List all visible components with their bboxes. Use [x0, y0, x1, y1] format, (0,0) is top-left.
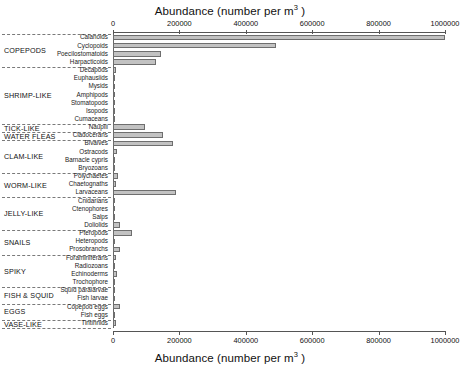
x-tick-mark-top	[445, 30, 446, 34]
bar-row[interactable]	[113, 181, 445, 189]
x-axis-title-top-tail: )	[298, 5, 305, 17]
bar-row[interactable]	[113, 58, 445, 66]
bar-row[interactable]	[113, 287, 445, 295]
bar-row[interactable]	[113, 140, 445, 148]
category-label: Calanoids	[80, 33, 108, 40]
bar[interactable]	[113, 247, 120, 253]
bar[interactable]	[113, 132, 163, 138]
x-tick-label-bottom: 200000	[167, 336, 192, 345]
bar[interactable]	[113, 181, 116, 187]
bar[interactable]	[113, 320, 116, 326]
bar[interactable]	[113, 271, 117, 277]
bar[interactable]	[113, 84, 115, 90]
bar-row[interactable]	[113, 156, 445, 164]
category-label: Chaetognaths	[69, 180, 108, 187]
bar-row[interactable]	[113, 254, 445, 262]
bar-row[interactable]	[113, 83, 445, 91]
bar[interactable]	[113, 173, 118, 179]
category-label: Bryozoans	[78, 164, 108, 171]
bar[interactable]	[113, 108, 115, 114]
bar[interactable]	[113, 75, 115, 81]
x-axis-title-top-text: Abundance (number per m	[155, 5, 294, 17]
bar-row[interactable]	[113, 238, 445, 246]
bar-row[interactable]	[113, 50, 445, 58]
x-axis-title-bottom: Abundance (number per m3 )	[0, 350, 460, 364]
x-tick-label-top: 600000	[300, 19, 325, 28]
bar[interactable]	[113, 287, 115, 293]
bar[interactable]	[113, 222, 120, 228]
bar[interactable]	[113, 206, 115, 212]
x-tick-label-bottom: 1000000	[431, 336, 460, 345]
bar[interactable]	[113, 230, 132, 236]
category-label: Cladocerans	[73, 131, 108, 138]
bar[interactable]	[113, 157, 115, 163]
bar-row[interactable]	[113, 165, 445, 173]
bar[interactable]	[113, 59, 156, 65]
x-tick-mark-bottom	[312, 331, 313, 335]
bar[interactable]	[113, 149, 117, 155]
bar-row[interactable]	[113, 124, 445, 132]
bar[interactable]	[113, 141, 173, 147]
bar[interactable]	[113, 124, 145, 130]
category-label: Stomatopods	[71, 99, 108, 106]
bar-row[interactable]	[113, 107, 445, 115]
bar[interactable]	[113, 35, 445, 41]
bar-row[interactable]	[113, 303, 445, 311]
bar-row[interactable]	[113, 91, 445, 99]
category-label: Prosobranchs	[69, 245, 108, 252]
x-tick-mark-bottom	[113, 331, 114, 335]
category-label: Mysids	[88, 82, 108, 89]
category-label: Polychaetes	[74, 172, 108, 179]
bar[interactable]	[113, 296, 115, 302]
bar-row[interactable]	[113, 34, 445, 42]
bar-row[interactable]	[113, 230, 445, 238]
bar-row[interactable]	[113, 116, 445, 124]
x-axis-title-bottom-tail: )	[298, 352, 305, 364]
bar-row[interactable]	[113, 67, 445, 75]
bar[interactable]	[113, 92, 115, 98]
bar-row[interactable]	[113, 205, 445, 213]
bar[interactable]	[113, 279, 115, 285]
x-tick-label-top: 200000	[167, 19, 192, 28]
bar-row[interactable]	[113, 319, 445, 327]
bar[interactable]	[113, 239, 115, 245]
bar[interactable]	[113, 165, 115, 171]
bar[interactable]	[113, 43, 276, 49]
category-label: Decapods	[80, 66, 108, 73]
bar-row[interactable]	[113, 262, 445, 270]
category-label: Nauplii	[89, 123, 108, 130]
bar-row[interactable]	[113, 311, 445, 319]
bar-row[interactable]	[113, 189, 445, 197]
bar[interactable]	[113, 67, 116, 73]
bar-row[interactable]	[113, 148, 445, 156]
bar-row[interactable]	[113, 75, 445, 83]
x-tick-label-top: 800000	[366, 19, 391, 28]
bar-row[interactable]	[113, 246, 445, 254]
bar-row[interactable]	[113, 295, 445, 303]
bar[interactable]	[113, 263, 115, 269]
category-label: Cumaceans	[74, 115, 108, 122]
bar[interactable]	[113, 116, 115, 122]
bar[interactable]	[113, 100, 115, 106]
bar-row[interactable]	[113, 173, 445, 181]
bar-row[interactable]	[113, 279, 445, 287]
category-label: Heteropods	[75, 237, 108, 244]
group-separator	[2, 328, 111, 329]
bar-row[interactable]	[113, 132, 445, 140]
bar[interactable]	[113, 304, 120, 310]
bar[interactable]	[113, 214, 115, 220]
bar[interactable]	[113, 255, 116, 261]
category-row: Tintinnids	[0, 319, 111, 327]
bar-row[interactable]	[113, 213, 445, 221]
bar-row[interactable]	[113, 222, 445, 230]
bar-row[interactable]	[113, 271, 445, 279]
bar-row[interactable]	[113, 197, 445, 205]
x-axis-ticks-bottom: 02000004000006000008000001000000	[0, 331, 460, 349]
bar[interactable]	[113, 190, 176, 196]
bar[interactable]	[113, 312, 115, 318]
bar-row[interactable]	[113, 99, 445, 107]
bar[interactable]	[113, 198, 115, 204]
bar[interactable]	[113, 51, 161, 57]
bar-row[interactable]	[113, 42, 445, 50]
category-label: Pteropods	[79, 229, 108, 236]
